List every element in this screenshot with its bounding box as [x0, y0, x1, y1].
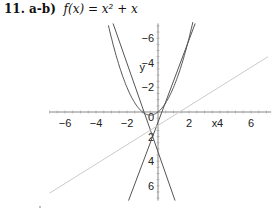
x-tick-label: 6 — [248, 117, 254, 129]
straight-line — [50, 57, 269, 194]
plot-area: −6−4−20246x642−2−4−6y — [0, 0, 274, 210]
y-tick-label: 4 — [148, 155, 154, 167]
x-tick-label: −6 — [59, 117, 72, 129]
y-tick-label: 6 — [148, 180, 154, 192]
x-tick-label: −2 — [121, 117, 134, 129]
x-tick-label: 2 — [186, 117, 192, 129]
x-tick-label: −4 — [90, 117, 103, 129]
y-tick-label: −6 — [141, 32, 154, 44]
y-tick-label: −2 — [141, 81, 154, 93]
x-axis-label: x — [212, 117, 218, 129]
x-tick-label: 0 — [148, 111, 154, 123]
y-axis-label: y — [140, 61, 146, 73]
x-tick-label: 4 — [217, 117, 223, 129]
stray-mark — [39, 206, 41, 208]
